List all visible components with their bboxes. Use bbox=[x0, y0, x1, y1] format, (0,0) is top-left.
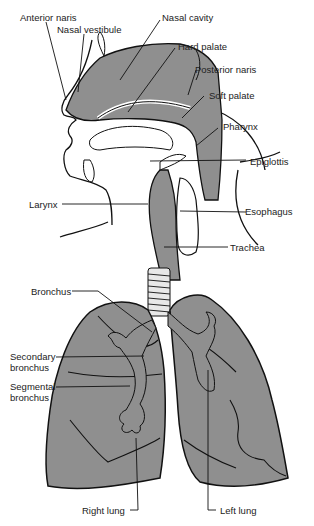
label-anterior-naris: Anterior naris bbox=[20, 12, 77, 23]
label-nasal-cavity: Nasal cavity bbox=[162, 12, 213, 23]
label-segmental-bronchus-line1: Segmental bbox=[10, 381, 55, 392]
label-bronchus: Bronchus bbox=[31, 286, 71, 297]
label-epiglottis: Epiglottis bbox=[250, 156, 289, 167]
label-pharynx: Pharynx bbox=[223, 121, 258, 132]
label-nasal-vestibule: Nasal vestibule bbox=[57, 24, 121, 35]
label-segmental-bronchus-line2: bronchus bbox=[10, 392, 49, 403]
label-right-lung: Right lung bbox=[82, 505, 125, 516]
label-trachea: Trachea bbox=[230, 242, 265, 253]
label-hard-palate: Hard palate bbox=[178, 41, 227, 52]
label-secondary-bronchus-line2: bronchus bbox=[10, 362, 49, 373]
label-soft-palate: Soft palate bbox=[209, 90, 254, 101]
trachea bbox=[148, 268, 170, 316]
label-larynx: Larynx bbox=[29, 199, 58, 210]
label-esophagus: Esophagus bbox=[245, 206, 293, 217]
label-left-lung: Left lung bbox=[220, 505, 256, 516]
label-posterior-naris: Posterior naris bbox=[195, 64, 256, 75]
label-secondary-bronchus-line1: Secondary bbox=[10, 351, 55, 362]
respiratory-system-illustration bbox=[0, 0, 314, 526]
left-lung bbox=[168, 295, 288, 486]
right-lung bbox=[46, 302, 165, 488]
